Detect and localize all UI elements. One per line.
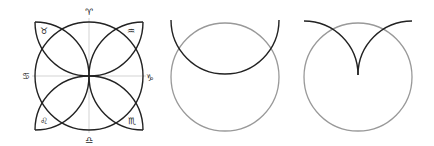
semicircle-figure [171,20,279,131]
gray-circle [304,23,412,131]
label-upper-left-taurus: ♉ [40,26,48,36]
label-upper-right-aquarius: ♒ [127,26,135,36]
label-lower-right-scorpio: ♏ [128,116,136,126]
label-left-cancer: ♋ [22,71,30,81]
cusp-figure [304,21,412,131]
label-bottom-libra: ♎ [85,135,93,145]
diagram-canvas: ♈ ♎ ♋ ♑ ♉ ♒ ♌ ♏ [0,0,434,146]
gray-circle [171,23,279,131]
zodiac-figure: ♈ ♎ ♋ ♑ ♉ ♒ ♌ ♏ [22,7,154,145]
label-lower-left-leo: ♌ [40,116,48,126]
label-right-capricorn: ♑ [146,73,154,83]
label-top-aries: ♈ [85,7,93,17]
dark-semicircle-arc [171,20,279,74]
